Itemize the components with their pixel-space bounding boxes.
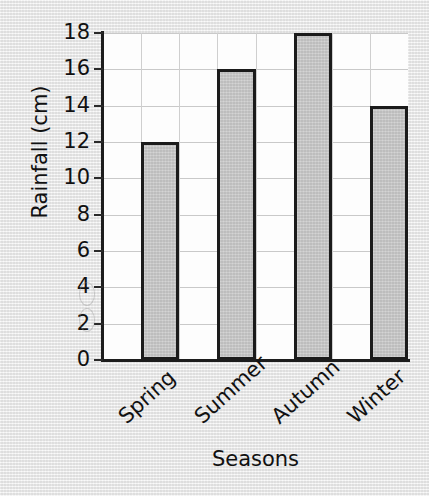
pencil-smudge: [79, 308, 95, 332]
gridline-vertical: [332, 33, 333, 360]
y-axis-title: Rainfall (cm): [28, 52, 52, 252]
x-label-summer: Summer: [191, 352, 271, 427]
y-tick-mark: [94, 286, 103, 288]
bar-summer: [217, 69, 255, 360]
y-tick-label: 18: [48, 22, 90, 43]
y-tick-label: 14: [48, 95, 90, 116]
bar-autumn: [294, 33, 332, 360]
bar-chart-figure: 024681012141618 SpringSummerAutumnWinter…: [0, 0, 429, 496]
plot-area: [103, 33, 408, 360]
x-axis-title: Seasons: [103, 447, 408, 471]
bar-spring: [141, 142, 179, 360]
y-tick-mark: [94, 141, 103, 143]
y-tick-mark: [94, 177, 103, 179]
gridline-vertical: [256, 33, 257, 360]
pencil-smudge: [79, 282, 95, 306]
bar-winter: [370, 106, 408, 360]
x-label-autumn: Autumn: [268, 356, 344, 427]
x-label-winter: Winter: [344, 366, 410, 428]
y-tick-mark: [94, 323, 103, 325]
y-tick-mark: [94, 32, 103, 34]
y-tick-label: 0: [48, 349, 90, 370]
y-tick-label: 8: [48, 204, 90, 225]
y-tick-label: 6: [48, 240, 90, 261]
y-tick-label: 12: [48, 131, 90, 152]
scanned-page: 024681012141618 SpringSummerAutumnWinter…: [0, 0, 429, 496]
y-tick-label: 16: [48, 58, 90, 79]
x-label-spring: Spring: [115, 367, 179, 428]
y-axis-line: [101, 31, 104, 362]
y-tick-mark: [94, 105, 103, 107]
gridline-vertical: [179, 33, 180, 360]
y-tick-mark: [94, 214, 103, 216]
y-tick-mark: [94, 250, 103, 252]
y-tick-mark: [94, 359, 103, 361]
y-tick-label: 10: [48, 167, 90, 188]
y-tick-mark: [94, 68, 103, 70]
